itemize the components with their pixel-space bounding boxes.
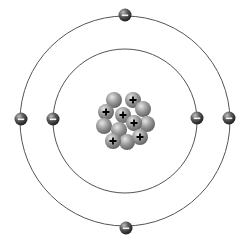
- atom-diagram: [0, 0, 243, 246]
- nucleus: [96, 92, 155, 150]
- electron-outer-left: [15, 113, 28, 126]
- neutron: [96, 118, 112, 134]
- electron-outer-bottom: [120, 222, 133, 235]
- proton: [98, 104, 114, 120]
- neutron-sphere-icon: [96, 118, 112, 134]
- electron-outer-right: [223, 112, 236, 125]
- proton: [132, 129, 148, 145]
- neutron-sphere-icon: [135, 101, 151, 117]
- neutron: [135, 101, 151, 117]
- proton: [126, 115, 142, 131]
- electron-inner-left: [47, 113, 60, 126]
- electron-outer-top: [119, 9, 132, 22]
- proton: [105, 133, 121, 149]
- electron-inner-right: [191, 112, 204, 125]
